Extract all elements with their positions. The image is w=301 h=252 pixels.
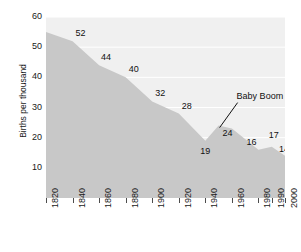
data-point-label: 40 <box>129 65 139 74</box>
x-axis-tick-label: 1840 <box>77 188 87 208</box>
x-axis-tick-mark <box>46 198 47 203</box>
x-axis-tick-mark <box>258 198 259 203</box>
data-point-label: 16 <box>246 138 256 147</box>
x-axis-tick-label: 1920 <box>183 188 193 208</box>
data-point-label: 28 <box>182 102 192 111</box>
birth-rate-area-chart: Births per thousand 102030405060 5552444… <box>0 0 301 252</box>
x-axis-tick-label: 1880 <box>130 188 140 208</box>
x-axis-tick-label: 1820 <box>50 188 60 208</box>
x-axis-tick-mark <box>205 198 206 203</box>
x-axis-tick-mark <box>126 198 127 203</box>
plot-area: 5552444032281924161714 Baby Boom <box>46 17 285 198</box>
y-axis-tick-label: 10 <box>26 163 42 172</box>
x-axis-tick-label: 2000 <box>289 188 299 208</box>
y-axis-tick-labels: 102030405060 <box>24 0 42 252</box>
x-axis-tick-mark <box>272 198 273 203</box>
data-point-label: 52 <box>76 29 86 38</box>
x-axis-tick-mark <box>99 198 100 203</box>
x-axis-tick-label: 1960 <box>236 188 246 208</box>
data-point-label: 17 <box>269 131 279 140</box>
y-axis-tick-label: 20 <box>26 133 42 142</box>
data-point-label: 24 <box>223 129 233 138</box>
data-point-label: 32 <box>155 89 165 98</box>
x-axis-tick-label: 1860 <box>103 188 113 208</box>
x-axis-tick-mark <box>285 198 286 203</box>
x-axis-tick-mark <box>152 198 153 203</box>
data-point-label: 14 <box>279 145 285 154</box>
x-axis-tick-mark <box>73 198 74 203</box>
x-axis-tick-label: 1900 <box>156 188 166 208</box>
data-point-label: 44 <box>101 53 111 62</box>
x-axis-tick-mark <box>232 198 233 203</box>
x-axis-tick-mark <box>179 198 180 203</box>
annotation-leader-line <box>220 103 238 128</box>
annotation-baby-boom-label: Baby Boom <box>237 92 284 101</box>
area-series-fill <box>46 32 285 198</box>
plot-svg <box>46 17 285 198</box>
y-axis-tick-label: 30 <box>26 103 42 112</box>
x-axis-tick-label: 1940 <box>209 188 219 208</box>
data-point-label: 19 <box>200 147 210 156</box>
x-axis-tick-labels: 1820184018601880190019201940196019801990… <box>46 198 285 252</box>
y-axis-tick-label: 60 <box>26 12 42 21</box>
annotation-leader-line-segment <box>220 103 238 128</box>
y-axis-tick-label: 50 <box>26 42 42 51</box>
y-axis-tick-label: 40 <box>26 72 42 81</box>
